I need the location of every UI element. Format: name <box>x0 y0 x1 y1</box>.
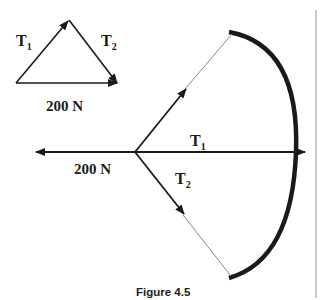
t1-tension-arrow <box>135 89 186 152</box>
triangle-t1-label: T1 <box>16 32 32 52</box>
bow-t2-label: T2 <box>175 170 191 190</box>
lower-string <box>183 215 231 276</box>
bow-limb <box>229 32 296 278</box>
bow-t1-label: T1 <box>190 132 206 152</box>
t1-vector-arrow <box>16 21 68 83</box>
force-diagram: T1 T2 200 N T1 T2 200 N Figure 4.5 <box>0 0 322 300</box>
vector-triangle: T1 T2 200 N <box>16 20 117 114</box>
bow-force-label: 200 N <box>74 161 111 177</box>
upper-string <box>185 34 232 89</box>
triangle-base-label: 200 N <box>46 98 83 114</box>
triangle-t2-label: T2 <box>101 32 117 52</box>
bow-diagram: T1 T2 200 N <box>36 32 305 278</box>
figure-caption: Figure 4.5 <box>136 286 191 298</box>
t2-vector-arrow <box>69 20 117 83</box>
